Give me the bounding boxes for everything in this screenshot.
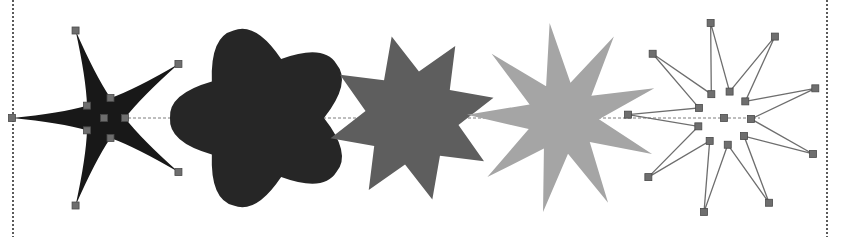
vertex-handle-0-6[interactable]: [72, 202, 79, 209]
vertex-handle-4-6[interactable]: [810, 150, 817, 157]
vertex-handle-0-9[interactable]: [84, 102, 91, 109]
star-shapes-drawing: [0, 0, 843, 237]
vertex-handle-0-4[interactable]: [175, 169, 182, 176]
vertex-handle-4-0[interactable]: [707, 19, 714, 26]
vertex-handle-4-9[interactable]: [724, 141, 731, 148]
shape-star-5-point-blob[interactable]: [170, 29, 342, 208]
vertex-handle-4-16[interactable]: [649, 50, 656, 57]
vertex-handle-0-3[interactable]: [122, 115, 129, 122]
vertex-handle-0-2[interactable]: [175, 60, 182, 67]
vertex-handle-0-5[interactable]: [107, 134, 114, 141]
vertex-handle-0-7[interactable]: [84, 127, 91, 134]
vertex-handle-4-17[interactable]: [708, 91, 715, 98]
handles-star-9-point-wireframe: [625, 19, 819, 215]
vertex-handle-4-12[interactable]: [645, 174, 652, 181]
star-shapes-canvas: [0, 0, 843, 237]
vertex-handle-4-5[interactable]: [747, 115, 754, 122]
center-handle-4[interactable]: [721, 115, 728, 122]
vertex-handle-4-14[interactable]: [625, 111, 632, 118]
center-handle-0[interactable]: [101, 115, 108, 122]
vertex-handle-4-7[interactable]: [741, 133, 748, 140]
vertex-handle-4-4[interactable]: [812, 85, 819, 92]
star-polygon-1[interactable]: [170, 29, 342, 208]
vertex-handle-4-1[interactable]: [726, 88, 733, 95]
vertex-handle-4-13[interactable]: [695, 123, 702, 130]
vertex-handle-4-11[interactable]: [706, 137, 713, 144]
vertex-handle-4-15[interactable]: [695, 104, 702, 111]
vertex-handle-4-3[interactable]: [742, 98, 749, 105]
shape-stage: [0, 0, 843, 237]
vertex-handle-4-2[interactable]: [771, 33, 778, 40]
vertex-handle-0-8[interactable]: [9, 115, 16, 122]
vertex-handle-0-0[interactable]: [72, 27, 79, 34]
vertex-handle-0-1[interactable]: [107, 95, 114, 102]
vertex-handle-4-10[interactable]: [701, 208, 708, 215]
vertex-handle-4-8[interactable]: [766, 199, 773, 206]
